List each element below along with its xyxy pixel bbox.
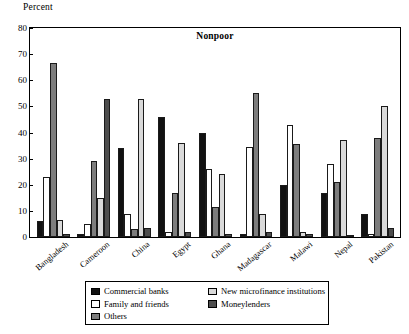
bar-group [321, 28, 354, 237]
y-axis-tick: 30 [18, 154, 30, 164]
legend-swatch-others-icon [91, 313, 100, 321]
bar-group [118, 28, 151, 237]
y-axis-unit-label: Percent [23, 2, 53, 12]
bar-family [206, 169, 213, 237]
bar-others [172, 193, 179, 237]
plot-area: Nonpoor 01020304050607080 [29, 27, 401, 238]
bar-groups [30, 28, 400, 237]
bar-group [37, 28, 70, 237]
bar-family [368, 234, 375, 237]
bar-group [280, 28, 313, 237]
x-axis-labels: BangladeshCameroonChinaEgyptGhanaMadagas… [29, 239, 401, 283]
bar-newmfi [57, 220, 64, 237]
bar-group [240, 28, 273, 237]
legend-column-left: Commercial banksFamily and friendsOthers [91, 285, 169, 323]
bar-group [77, 28, 110, 237]
bar-newmfi [300, 232, 307, 237]
bar-commercial [158, 117, 165, 237]
bar-commercial [37, 221, 44, 237]
bar-group [361, 28, 394, 237]
bar-newmfi [219, 174, 226, 237]
bar-others [212, 207, 219, 237]
bar-group [158, 28, 191, 237]
legend-label: Others [104, 311, 127, 321]
legend-label: New microfinance institutions [221, 286, 325, 296]
legend-column-right: New microfinance institutionsMoneylender… [208, 285, 325, 310]
y-axis-tick: 10 [18, 206, 30, 216]
bar-family [246, 147, 253, 237]
bar-others [334, 182, 341, 237]
bar-others [131, 229, 138, 237]
legend-item-commercial: Commercial banks [91, 285, 169, 298]
legend-item-money: Moneylenders [208, 298, 325, 311]
legend-swatch-family-icon [91, 300, 100, 308]
bar-commercial [199, 133, 206, 238]
y-axis-tick: 70 [18, 49, 30, 59]
y-axis-tick: 80 [18, 23, 30, 33]
legend-item-others: Others [91, 310, 169, 323]
bar-newmfi [340, 140, 347, 237]
bar-newmfi [138, 99, 145, 237]
bar-family [43, 177, 50, 237]
bar-money [104, 99, 111, 237]
legend-label: Commercial banks [104, 286, 169, 296]
legend-label: Family and friends [104, 299, 169, 309]
bar-others [374, 138, 381, 237]
bar-newmfi [178, 143, 185, 237]
legend-swatch-money-icon [208, 300, 217, 308]
chart-legend: Commercial banksFamily and friendsOthers… [85, 281, 329, 325]
chart-root: Percent Nonpoor 01020304050607080 Bangla… [0, 0, 409, 334]
bar-newmfi [381, 106, 388, 237]
y-axis-tick: 40 [18, 128, 30, 138]
bar-group [199, 28, 232, 237]
y-axis-tick: 50 [18, 101, 30, 111]
legend-item-family: Family and friends [91, 298, 169, 311]
legend-label: Moneylenders [221, 299, 270, 309]
y-axis-tick: 20 [18, 180, 30, 190]
legend-swatch-commercial-icon [91, 288, 100, 296]
bar-others [50, 63, 57, 237]
bar-newmfi [259, 214, 266, 238]
y-axis-tick: 60 [18, 75, 30, 85]
legend-swatch-newmfi-icon [208, 288, 217, 296]
legend-item-newmfi: New microfinance institutions [208, 285, 325, 298]
bar-others [253, 93, 260, 237]
